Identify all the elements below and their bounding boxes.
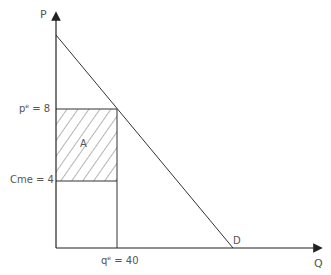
quantity-value: = 40 — [111, 255, 138, 266]
price-label: pe = 8 — [19, 102, 50, 114]
quantity-label: qe = 40 — [101, 254, 139, 266]
area-a-label: A — [80, 138, 87, 149]
y-axis-label: P — [40, 8, 47, 21]
chart-canvas — [0, 0, 331, 275]
x-axis-label: Q — [314, 257, 323, 270]
price-value: = 8 — [29, 103, 50, 114]
cme-label: Cme = 4 — [10, 174, 54, 185]
demand-label: D — [233, 235, 241, 246]
